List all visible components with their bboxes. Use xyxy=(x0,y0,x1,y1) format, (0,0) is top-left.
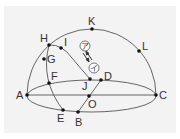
point-i xyxy=(59,46,63,50)
label-b: B xyxy=(75,116,82,128)
label-h: H xyxy=(40,32,48,44)
marker-i-label: イ xyxy=(90,64,98,73)
label-e: E xyxy=(57,112,64,124)
label-i: I xyxy=(64,36,67,48)
point-g xyxy=(42,57,46,61)
label-f: F xyxy=(51,70,58,82)
celestial-sphere-diagram: ア イ A B C D E F G H I J K L O xyxy=(0,0,180,139)
label-a: A xyxy=(16,89,24,101)
label-o: O xyxy=(88,98,97,110)
label-j: J xyxy=(82,80,88,92)
point-d xyxy=(99,78,103,82)
point-c xyxy=(154,93,158,97)
point-j xyxy=(88,77,92,81)
point-a xyxy=(25,93,29,97)
label-k: K xyxy=(88,15,96,27)
label-c: C xyxy=(159,89,167,101)
label-d: D xyxy=(104,70,112,82)
label-l: L xyxy=(142,40,148,52)
label-g: G xyxy=(47,53,56,65)
marker-a-label: ア xyxy=(81,42,89,51)
point-l xyxy=(137,49,141,53)
point-b xyxy=(76,110,80,114)
point-k xyxy=(90,27,94,31)
